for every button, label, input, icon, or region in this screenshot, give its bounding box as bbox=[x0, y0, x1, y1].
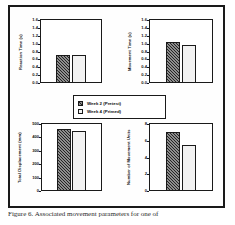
bars-area bbox=[41, 20, 101, 83]
chart-movement-time: Movement Time (s) 0.00.20.40.60.81.01.21… bbox=[125, 15, 221, 93]
bars-area bbox=[42, 124, 101, 191]
y-axis-ticks: 0.00.20.40.60.81.01.21.41.6 bbox=[135, 19, 147, 83]
y-tick-label: 100 bbox=[32, 176, 39, 180]
bar bbox=[182, 145, 197, 191]
y-tick-mark bbox=[39, 191, 41, 192]
y-tick-label: 300 bbox=[32, 149, 39, 153]
legend-swatch-week4-icon bbox=[78, 109, 83, 114]
bar bbox=[57, 129, 71, 191]
y-tick-mark bbox=[147, 83, 149, 84]
y-tick-label: 500 bbox=[32, 122, 39, 126]
y-axis-title: Movement Time (s) bbox=[127, 17, 132, 87]
bar bbox=[72, 131, 86, 191]
legend-label: Week 2 (Pretest) bbox=[87, 101, 121, 106]
bar bbox=[166, 42, 181, 83]
figure-caption: Figure 6. Associated movement parameters… bbox=[8, 210, 227, 218]
figure-panel: Reaction Time (s) 0.00.20.40.60.81.01.21… bbox=[8, 5, 225, 208]
y-axis-title: Reaction Time (s) bbox=[18, 19, 23, 85]
y-tick-label: 200 bbox=[32, 162, 39, 166]
y-axis-ticks: 02468 bbox=[137, 123, 147, 191]
y-axis-title: Number of Movement Units bbox=[126, 119, 131, 195]
bars-area bbox=[150, 20, 212, 83]
y-axis-ticks: 0100200300400500 bbox=[26, 123, 39, 191]
bar bbox=[56, 55, 70, 83]
bar bbox=[166, 132, 181, 191]
y-tick-mark bbox=[38, 83, 40, 84]
y-axis-title: Total Displacement (mm) bbox=[17, 121, 22, 195]
y-tick-label: 400 bbox=[32, 135, 39, 139]
legend-swatch-week2-icon bbox=[78, 101, 83, 106]
y-tick-mark bbox=[147, 191, 149, 192]
chart-reaction-time: Reaction Time (s) 0.00.20.40.60.81.01.21… bbox=[16, 15, 111, 93]
bars-area bbox=[150, 124, 212, 191]
bar bbox=[72, 55, 86, 83]
y-axis-ticks: 0.00.20.40.60.81.01.21.41.6 bbox=[26, 19, 38, 83]
legend-item: Week 2 (Pretest) bbox=[78, 99, 161, 107]
chart-movement-units: Number of Movement Units 02468 bbox=[125, 119, 221, 203]
legend-item: Week 4 (Primed) bbox=[78, 107, 161, 115]
legend-label: Week 4 (Primed) bbox=[87, 109, 121, 114]
chart-total-displacement: Total Displacement (mm) 0100200300400500 bbox=[16, 119, 111, 203]
legend: Week 2 (Pretest) Week 4 (Primed) bbox=[73, 95, 166, 119]
bar bbox=[182, 45, 197, 83]
